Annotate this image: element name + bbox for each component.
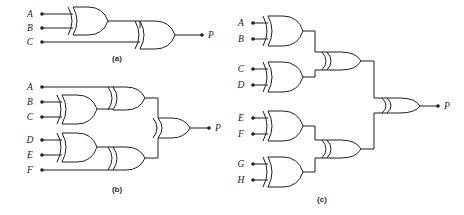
gate-c1-body: [268, 16, 303, 46]
panel-c: A B C D E F G H P (c): [237, 16, 451, 204]
gate-b4-xor-gate: [108, 147, 145, 170]
terminal-dot-c-H: [251, 178, 255, 182]
gate-c7-xor-gate: [382, 98, 420, 113]
terminal-dot-c-D: [251, 83, 255, 87]
gate-b5-xor-extra-arc: [153, 118, 157, 138]
label-c-output-P: P: [443, 101, 450, 111]
terminal-dot-b-F: [40, 168, 44, 172]
gate-c1-xor-extra-arc: [263, 16, 267, 46]
label-c-input-C: C: [238, 64, 245, 74]
panel-a: A B C P (a): [26, 7, 214, 63]
terminal-dot-b-E: [40, 153, 44, 157]
gate-a1-xor-extra-arc: [68, 7, 72, 35]
gate-b3-xor-extra-arc: [57, 133, 61, 162]
gate-b1-body: [62, 95, 97, 124]
terminal-dot-a-B: [40, 26, 44, 30]
wire-b-g2-to-g5: [145, 98, 158, 118]
label-a-input-B: B: [27, 23, 33, 33]
label-b-input-A: A: [26, 82, 33, 92]
label-c-input-H: H: [237, 175, 246, 185]
circuit-diagram-canvas: A B C P (a): [0, 0, 464, 215]
terminal-dot-c-G: [251, 162, 255, 166]
terminal-dot-b-D: [40, 138, 44, 142]
gate-b2-xor-gate: [108, 87, 145, 110]
gate-b1-xor-extra-arc: [57, 95, 61, 124]
terminal-dot-b-A: [40, 85, 44, 89]
label-c-input-E: E: [237, 113, 244, 123]
gate-a1-xor-gate: [68, 7, 108, 35]
label-b-input-F: F: [26, 165, 33, 175]
gate-c5-xor-extra-arc: [322, 52, 326, 70]
label-b-input-E: E: [26, 150, 33, 160]
gate-b1-xor-gate: [57, 95, 97, 124]
gate-c6-body: [327, 140, 361, 158]
label-b-output-P: P: [214, 123, 221, 133]
terminal-dot-c-A: [251, 21, 255, 25]
caption-panel-b: (b): [112, 185, 123, 194]
logic-circuit-figure: A B C P (a): [0, 0, 464, 215]
caption-panel-a: (a): [112, 54, 122, 63]
terminal-dot-b-C: [40, 115, 44, 119]
panel-b: A B C D E F P (b): [26, 82, 222, 194]
gate-b3-body: [62, 133, 97, 162]
gate-c6-xor-gate: [322, 140, 361, 158]
gate-a2-body: [140, 21, 175, 49]
gate-c2-xor-gate: [263, 62, 303, 92]
gate-a2-xor-extra-arc: [135, 21, 139, 49]
label-c-input-B: B: [238, 34, 244, 44]
gate-c4-body: [268, 157, 303, 187]
gate-c3-xor-gate: [263, 111, 303, 141]
label-c-input-F: F: [237, 129, 244, 139]
gate-c2-body: [268, 62, 303, 92]
gate-c7-body: [387, 98, 420, 113]
label-c-input-D: D: [237, 80, 245, 90]
label-a-input-C: C: [27, 37, 34, 47]
gate-c3-body: [268, 111, 303, 141]
label-b-input-D: D: [26, 135, 34, 145]
gate-b4-body: [113, 147, 145, 170]
terminal-dot-c-C: [251, 67, 255, 71]
gate-b2-xor-extra-arc: [108, 87, 112, 110]
caption-panel-c: (c): [317, 195, 327, 204]
gate-c5-body: [327, 52, 361, 70]
wire-c-g2-to-g5: [303, 70, 327, 77]
gate-b3-xor-gate: [57, 133, 97, 162]
terminal-dot-b-B: [40, 100, 44, 104]
terminal-dot-a-C: [40, 40, 44, 44]
terminal-dot-a-P: [200, 33, 204, 37]
label-c-input-G: G: [238, 159, 245, 169]
label-a-output-P: P: [207, 30, 214, 40]
terminal-dot-b-P: [207, 126, 211, 130]
label-a-input-A: A: [26, 9, 33, 19]
gate-c1-xor-gate: [263, 16, 303, 46]
wire-c-g4-to-g6: [303, 158, 327, 172]
gate-a1-body: [73, 7, 108, 35]
terminal-dot-c-F: [251, 132, 255, 136]
terminal-dot-a-A: [40, 12, 44, 16]
gate-c3-xor-extra-arc: [263, 111, 267, 141]
terminal-dot-c-E: [251, 116, 255, 120]
gate-c6-xor-extra-arc: [322, 140, 326, 158]
gate-c7-xor-extra-arc: [382, 98, 386, 113]
terminal-dot-c-P: [436, 104, 440, 108]
gate-b5-xor-gate: [153, 118, 190, 138]
gate-a2-xor-gate: [135, 21, 175, 49]
label-c-input-A: A: [237, 18, 244, 28]
label-b-input-B: B: [27, 97, 33, 107]
gate-c4-xor-gate: [263, 157, 303, 187]
gate-c5-xor-gate: [322, 52, 361, 70]
gate-b5-body: [158, 118, 190, 138]
gate-b4-xor-extra-arc: [108, 147, 112, 170]
wire-c-g6-to-g7: [361, 113, 387, 149]
wire-c-g3-to-g6: [303, 126, 327, 140]
wire-b-g4-to-g5: [145, 138, 158, 158]
gate-b2-body: [113, 87, 145, 110]
wire-c-g5-to-g7: [361, 61, 387, 98]
terminal-dot-c-B: [251, 37, 255, 41]
gate-c2-xor-extra-arc: [263, 62, 267, 92]
wire-c-g1-to-g5: [303, 31, 327, 52]
label-b-input-C: C: [27, 112, 34, 122]
gate-c4-xor-extra-arc: [263, 157, 267, 187]
